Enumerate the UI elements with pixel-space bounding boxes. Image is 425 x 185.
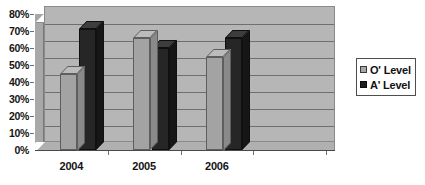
y-axis-tick-mark [30,99,34,100]
bar-group-container [35,6,335,158]
x-axis-tick-label: 2005 [108,160,181,173]
bar-front-face [206,57,223,151]
bar-side-face [169,40,177,150]
y-axis-tick-label: 10% [0,128,34,138]
bar-front-face [60,74,77,151]
y-axis-tick-label: 20% [0,111,34,121]
x-axis-category-labels: 200420052006 [35,160,335,176]
bar-olevel-2004 [60,74,77,151]
y-axis-tick-label: 50% [0,60,34,70]
legend-label-a-level: A' Level [370,79,410,91]
plot-area [35,6,335,158]
x-axis-tick-label: 2004 [35,160,108,173]
y-axis-tick-label: 70% [0,26,34,36]
y-axis-tick-mark [30,65,34,66]
y-axis-tick-mark [30,48,34,49]
legend-label-o-level: O' Level [370,64,411,76]
legend-item-o-level: O' Level [360,62,411,77]
y-axis: 0%10%20%30%40%50%60%70%80% [0,0,34,185]
bar-olevel-2006 [206,57,223,151]
x-axis-tick-mark [108,151,109,155]
y-axis-tick-label: 60% [0,43,34,53]
y-axis-tick-mark [30,31,34,32]
chart-legend: O' Level A' Level [356,58,416,96]
y-axis-tick-label: 40% [0,77,34,87]
bar-side-face [77,65,85,150]
x-axis-tick-label: 2006 [181,160,254,173]
y-axis-tick-mark [30,133,34,134]
x-axis-tick-mark [253,151,254,155]
chart-figure: 0%10%20%30%40%50%60%70%80% 200420052006 … [0,0,425,185]
y-axis-tick-label: 80% [0,9,34,19]
x-axis-tick-mark [181,151,182,155]
legend-swatch-icon-a-level [360,81,367,88]
legend-item-a-level: A' Level [360,77,411,92]
x-axis-tick-mark [326,151,327,155]
bar-side-face [96,21,104,150]
bar-side-face [223,48,231,150]
bar-olevel-2005 [133,38,150,150]
y-axis-tick-mark [30,82,34,83]
y-axis-tick-label: 30% [0,94,34,104]
y-axis-tick-mark [30,14,34,15]
legend-swatch-icon-o-level [360,66,367,73]
bar-side-face [150,30,158,150]
bar-front-face [133,38,150,150]
bar-side-face [242,30,250,150]
y-axis-tick-mark [30,116,34,117]
